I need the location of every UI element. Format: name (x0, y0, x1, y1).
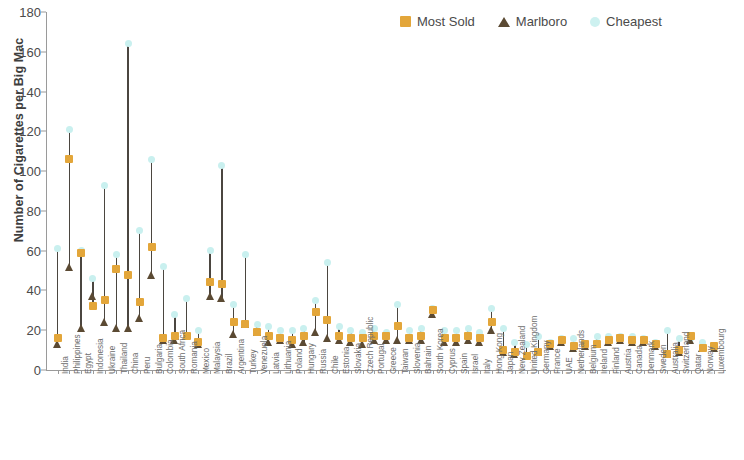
x-tick-label: Switzerland (682, 332, 691, 374)
x-tick-label: Greece (389, 347, 398, 374)
marker-cheapest[interactable] (230, 301, 237, 308)
y-tick-label: 100 (19, 164, 41, 179)
marker-most-sold[interactable] (54, 334, 62, 342)
marker-marlboro[interactable] (217, 294, 225, 302)
marker-most-sold[interactable] (558, 336, 566, 344)
marker-cheapest[interactable] (312, 297, 319, 304)
marker-most-sold[interactable] (347, 334, 355, 342)
marker-most-sold[interactable] (323, 316, 331, 324)
x-tick-label: Finland (612, 347, 621, 374)
marker-cheapest[interactable] (183, 295, 190, 302)
marker-cheapest[interactable] (254, 321, 261, 328)
marker-cheapest[interactable] (347, 327, 354, 334)
marker-most-sold[interactable] (452, 334, 460, 342)
marker-cheapest[interactable] (453, 327, 460, 334)
marker-cheapest[interactable] (594, 333, 601, 340)
marker-cheapest[interactable] (113, 251, 120, 258)
x-tick-label: Mexico (202, 348, 211, 374)
marker-cheapest[interactable] (488, 305, 495, 312)
marker-most-sold[interactable] (101, 296, 109, 304)
marker-most-sold[interactable] (464, 332, 472, 340)
marker-most-sold[interactable] (616, 334, 624, 342)
x-tick-mark (515, 370, 516, 374)
y-tick-label: 160 (19, 44, 41, 59)
marker-most-sold[interactable] (148, 243, 156, 251)
x-tick-label: Russia (319, 349, 328, 374)
marker-marlboro[interactable] (487, 326, 495, 334)
marker-cheapest[interactable] (136, 227, 143, 234)
range-stem (245, 255, 246, 325)
marker-marlboro[interactable] (77, 324, 85, 332)
marker-marlboro[interactable] (393, 336, 401, 344)
marker-cheapest[interactable] (242, 251, 249, 258)
marker-cheapest[interactable] (171, 311, 178, 318)
marker-most-sold[interactable] (417, 332, 425, 340)
marker-most-sold[interactable] (382, 332, 390, 340)
marker-cheapest[interactable] (664, 327, 671, 334)
marker-cheapest[interactable] (336, 323, 343, 330)
marker-most-sold[interactable] (206, 278, 214, 286)
marker-most-sold[interactable] (335, 332, 343, 340)
marker-marlboro[interactable] (229, 330, 237, 338)
marker-cheapest[interactable] (66, 126, 73, 133)
marker-most-sold[interactable] (124, 271, 132, 279)
marker-cheapest[interactable] (89, 275, 96, 282)
marker-cheapest[interactable] (160, 263, 167, 270)
marker-marlboro[interactable] (135, 314, 143, 322)
range-stem (151, 159, 152, 274)
marker-marlboro[interactable] (124, 324, 132, 332)
marker-cheapest[interactable] (418, 325, 425, 332)
marker-cheapest[interactable] (406, 327, 413, 334)
marker-marlboro[interactable] (112, 324, 120, 332)
marker-most-sold[interactable] (136, 298, 144, 306)
marker-cheapest[interactable] (300, 325, 307, 332)
marker-most-sold[interactable] (476, 334, 484, 342)
marker-marlboro[interactable] (206, 292, 214, 300)
marker-cheapest[interactable] (207, 247, 214, 254)
x-tick-label: Czech Republic (366, 317, 375, 374)
marker-cheapest[interactable] (218, 162, 225, 169)
marker-most-sold[interactable] (488, 318, 496, 326)
marker-marlboro[interactable] (323, 334, 331, 342)
marker-cheapest[interactable] (148, 156, 155, 163)
marker-cheapest[interactable] (324, 259, 331, 266)
marker-most-sold[interactable] (300, 332, 308, 340)
marker-most-sold[interactable] (218, 280, 226, 288)
marker-cheapest[interactable] (195, 327, 202, 334)
marker-marlboro[interactable] (88, 292, 96, 300)
marker-most-sold[interactable] (394, 322, 402, 330)
x-tick-label: United Kingdom (530, 316, 539, 374)
y-tick-label: 140 (19, 84, 41, 99)
marker-most-sold[interactable] (405, 334, 413, 342)
marker-cheapest[interactable] (465, 325, 472, 332)
marker-most-sold[interactable] (241, 320, 249, 328)
x-tick-label: Poland (295, 349, 304, 375)
marker-marlboro[interactable] (147, 271, 155, 279)
marker-most-sold[interactable] (65, 155, 73, 163)
marker-most-sold[interactable] (230, 318, 238, 326)
marker-cheapest[interactable] (277, 327, 284, 334)
x-tick-label: Taiwan (401, 349, 410, 375)
marker-most-sold[interactable] (429, 306, 437, 314)
marker-cheapest[interactable] (500, 325, 507, 332)
marker-marlboro[interactable] (100, 318, 108, 326)
marker-most-sold[interactable] (77, 249, 85, 257)
marker-most-sold[interactable] (112, 265, 120, 273)
marker-cheapest[interactable] (125, 40, 132, 47)
marker-most-sold[interactable] (628, 336, 636, 344)
marker-cheapest[interactable] (265, 323, 272, 330)
x-tick-mark (175, 370, 176, 374)
marker-most-sold[interactable] (312, 308, 320, 316)
x-tick-label: Egypt (84, 353, 93, 374)
marker-cheapest[interactable] (54, 245, 61, 252)
marker-cheapest[interactable] (289, 327, 296, 334)
marker-most-sold[interactable] (89, 302, 97, 310)
marker-most-sold[interactable] (605, 336, 613, 344)
marker-cheapest[interactable] (101, 182, 108, 189)
marker-cheapest[interactable] (394, 301, 401, 308)
marker-marlboro[interactable] (311, 328, 319, 336)
y-tick-label: 60 (27, 243, 41, 258)
marker-marlboro[interactable] (65, 263, 73, 271)
plot-area (46, 12, 726, 370)
y-tick-label: 20 (27, 323, 41, 338)
